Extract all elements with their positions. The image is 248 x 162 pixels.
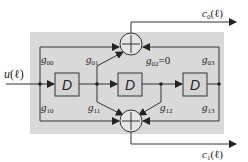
c0-output-line	[131, 22, 236, 33]
tap-label-g02: g02=0	[146, 54, 171, 68]
input-label: u(ℓ)	[4, 67, 24, 81]
junction-node-3	[159, 82, 163, 86]
delay-label-3: D	[190, 77, 200, 93]
top-adder	[120, 33, 142, 55]
output-label-c0: c0(ℓ)	[202, 7, 223, 21]
bottom-adder	[120, 110, 142, 132]
junction-node-1	[38, 82, 42, 86]
junction-node-2	[95, 82, 99, 86]
delay-label-2: D	[125, 77, 135, 93]
output-label-c1: c1(ℓ)	[202, 148, 223, 162]
delay-label-1: D	[62, 77, 72, 93]
encoder-diagram: D D D u(ℓ) c0(ℓ) c1(ℓ) g00 g01 g02=0 g03	[0, 0, 248, 162]
junction-node-4	[217, 82, 221, 86]
